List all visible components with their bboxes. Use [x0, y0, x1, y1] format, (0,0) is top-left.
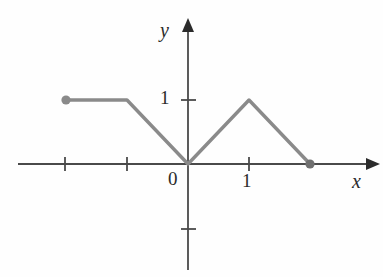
origin-label: 0 — [168, 168, 178, 190]
graph-figure: y x 0 1 1 — [0, 0, 383, 277]
y-axis-label: y — [160, 19, 169, 42]
y-axis-arrowhead — [182, 18, 194, 32]
y-tick-label-one: 1 — [160, 87, 170, 109]
x-axis-label: x — [352, 170, 361, 193]
endpoint-left-filled-dot — [61, 95, 70, 104]
x-tick-label-one: 1 — [242, 170, 252, 192]
coordinate-plot — [0, 0, 383, 277]
endpoint-right-filled-dot — [305, 159, 314, 168]
x-axis-arrowhead — [366, 158, 380, 170]
